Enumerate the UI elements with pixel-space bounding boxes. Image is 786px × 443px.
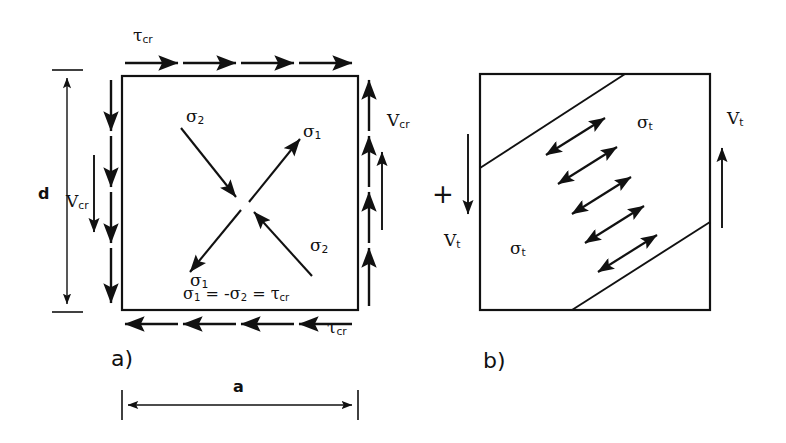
dimension-a-label: a: [233, 379, 244, 395]
dimension-d-label: d: [38, 186, 49, 202]
v-t-right-label: Vt: [727, 110, 743, 129]
v-cr-right-label: Vcr: [387, 112, 410, 131]
panel-b-group: [468, 74, 722, 310]
principal-stress-formula: σ1 = -σ2 = τcr: [183, 286, 289, 303]
panel-a-sigma2-upper-left-arrow: [181, 128, 236, 197]
sigma-2-upper-left-label: σ2: [186, 108, 204, 127]
tau-cr-bottom-label: τcr: [327, 319, 347, 338]
v-t-left-label: Vt: [444, 232, 460, 251]
v-cr-left-label: Vcr: [66, 193, 89, 212]
panel-b-diagonal-upper: [480, 74, 625, 168]
panel-b-tag: b): [483, 350, 506, 372]
sigma-2-lower-right-label: σ2: [310, 237, 328, 256]
panel-a-group: [52, 63, 382, 420]
panel-a-plate: [122, 76, 358, 310]
tau-cr-top-label: τcr: [133, 27, 153, 46]
sigma-t-lower-label: σt: [510, 240, 526, 259]
panel-a-sigma1-lower-left-arrow: [190, 210, 241, 272]
panel-b-tension-field-arrows: [546, 118, 657, 272]
panel-b-diagonal-lower: [572, 222, 710, 310]
sigma-1-upper-right-label: σ1: [303, 123, 321, 142]
sigma-t-upper-label: σt: [637, 114, 653, 133]
plus-operator: +: [432, 181, 454, 207]
panel-a-sigma2-lower-right-arrow: [254, 212, 312, 276]
panel-a-sigma1-upper-right-arrow: [249, 139, 300, 202]
shear-panel-figure: [0, 0, 786, 443]
panel-b-plate: [480, 74, 710, 310]
panel-a-tag: a): [111, 348, 133, 370]
